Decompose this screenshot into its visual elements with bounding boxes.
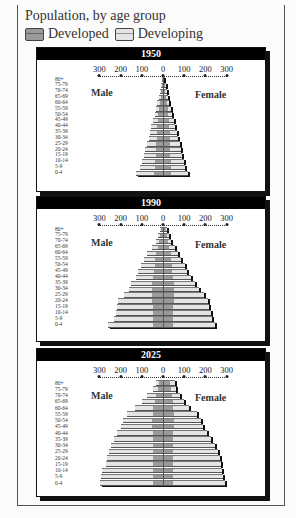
axis-tick-label: 200 bbox=[199, 64, 212, 74]
bar-male-developing bbox=[142, 159, 155, 164]
bar-male-developed bbox=[155, 257, 163, 262]
bar-male-developed bbox=[155, 399, 163, 405]
bar-female-developed bbox=[163, 147, 170, 152]
axis-tick-dot bbox=[162, 375, 165, 378]
bar-male-developing bbox=[106, 461, 153, 467]
x-axis: 3002001000100200300 bbox=[37, 64, 265, 80]
axis-tick-dot bbox=[225, 223, 228, 226]
legend-swatch-developing bbox=[115, 28, 134, 41]
bar-female-developed bbox=[163, 418, 174, 424]
bar-male-developed bbox=[153, 455, 163, 461]
bar-female-developed bbox=[163, 455, 173, 461]
bar-male-developed bbox=[153, 304, 163, 309]
female-label: Female bbox=[195, 239, 226, 250]
bar-male-developed bbox=[153, 474, 163, 480]
bar-male-developing bbox=[114, 436, 153, 442]
bar-male-developed bbox=[156, 153, 163, 158]
bar-male-developing bbox=[147, 251, 155, 256]
bar-male-developing bbox=[142, 399, 155, 405]
axis-tick-label: 300 bbox=[220, 213, 233, 223]
bar-female-developing bbox=[172, 393, 180, 399]
axis-tick-label: 200 bbox=[199, 365, 212, 375]
age-group-label: 20-24 bbox=[55, 455, 68, 461]
legend-label-developing: Developing bbox=[138, 26, 203, 42]
bar-male-developing bbox=[150, 130, 157, 135]
axis-tick-label: 200 bbox=[199, 213, 212, 223]
axis-tick-dot bbox=[98, 223, 101, 226]
bar-female-developing bbox=[173, 468, 222, 474]
bar-female-developing bbox=[172, 269, 187, 274]
bar-female-developing bbox=[170, 153, 182, 158]
bar-female-developing bbox=[171, 251, 178, 256]
bar-female-developing bbox=[173, 316, 212, 321]
bar-male-developing bbox=[116, 310, 153, 315]
bar-female-developing bbox=[173, 275, 191, 280]
bar-female-developing bbox=[170, 141, 180, 146]
bar-female-developed bbox=[163, 436, 173, 442]
bar-male-developing bbox=[117, 304, 153, 309]
bar-female-developed bbox=[163, 443, 173, 449]
pyramid-panel-1990: 19903002001000100200300MaleFemale80+75-7… bbox=[36, 196, 266, 342]
bar-female-developing bbox=[173, 443, 214, 449]
bar-male-developing bbox=[114, 316, 153, 321]
bar-male-developing bbox=[117, 430, 153, 436]
bar-male-developing bbox=[144, 257, 155, 262]
bar-male-developing bbox=[141, 263, 155, 268]
age-group-label: 0-4 bbox=[55, 322, 68, 328]
bar-male-developing bbox=[147, 141, 157, 146]
bar-female-developed bbox=[163, 263, 172, 268]
axis-tick-dot bbox=[119, 74, 122, 77]
age-group-label: 40-44 bbox=[55, 430, 68, 436]
bar-female-developing bbox=[173, 430, 207, 436]
bar-male-developing bbox=[147, 393, 155, 399]
bar-female-developed bbox=[163, 275, 173, 280]
age-group-labels: 80+75-7970-7465-6960-6455-5950-5445-4940… bbox=[55, 227, 68, 328]
bar-female-developed bbox=[163, 380, 170, 386]
bar-female-developed bbox=[163, 292, 174, 297]
bar-male-developing bbox=[145, 147, 156, 152]
bar-male-developed bbox=[154, 269, 163, 274]
bar-female-developing bbox=[173, 474, 223, 480]
female-label: Female bbox=[195, 89, 226, 100]
bar-female-developed bbox=[163, 165, 171, 170]
bar-female-developed bbox=[163, 257, 171, 262]
male-label: Male bbox=[91, 390, 113, 401]
bar-male-developing bbox=[131, 281, 152, 286]
bar-male-developed bbox=[152, 418, 163, 424]
pyramid-panel-2025: 20253002001000100200300MaleFemale80+75-7… bbox=[36, 348, 266, 497]
bar-female-developed bbox=[163, 269, 172, 274]
bar-female-developing bbox=[172, 263, 185, 268]
bar-female-developing bbox=[173, 461, 221, 467]
bar-female-developed bbox=[163, 141, 170, 146]
bar-female-developing bbox=[174, 411, 197, 417]
bar-male-developed bbox=[153, 310, 163, 315]
bar-male-developed bbox=[156, 141, 163, 146]
x-axis: 3002001000100200300 bbox=[37, 213, 265, 229]
female-label: Female bbox=[195, 392, 226, 403]
bar-female-developed bbox=[163, 393, 172, 399]
bar-female-developing bbox=[174, 424, 204, 430]
bar-female-developed bbox=[163, 298, 174, 303]
figure-title: Population, by age group bbox=[25, 8, 166, 24]
axis-tick-dot bbox=[204, 375, 207, 378]
axis-tick-dot bbox=[183, 74, 186, 77]
bar-male-developed bbox=[156, 147, 163, 152]
bar-female-developed bbox=[163, 399, 173, 405]
male-label: Male bbox=[91, 87, 113, 98]
bar-female-developed bbox=[163, 153, 170, 158]
age-group-label: 0-4 bbox=[55, 480, 68, 486]
bar-male-developed bbox=[155, 165, 163, 170]
axis-tick-label: 100 bbox=[178, 365, 191, 375]
bar-female-developed bbox=[163, 468, 173, 474]
axis-tick-label: 200 bbox=[114, 213, 127, 223]
bar-female-developed bbox=[163, 316, 173, 321]
bar-male-developed bbox=[156, 393, 163, 399]
bar-female-developed bbox=[163, 474, 173, 480]
axis-tick-dot bbox=[98, 74, 101, 77]
legend: Developed Developing bbox=[25, 25, 209, 43]
axis-tick-label: 300 bbox=[220, 64, 233, 74]
bar-male-developing bbox=[101, 474, 153, 480]
bar-female-developing bbox=[174, 298, 208, 303]
pyramid-panel-1950: 19503002001000100200300MaleFemale80+75-7… bbox=[36, 47, 266, 192]
bar-female-developing bbox=[174, 281, 195, 286]
